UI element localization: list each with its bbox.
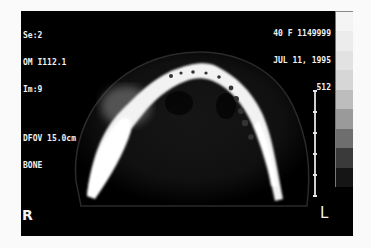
display-fov: DFOV 15.0cm bbox=[23, 134, 76, 143]
scale-tick bbox=[313, 132, 317, 134]
scale-tick bbox=[313, 90, 317, 92]
orientation-left-label: L bbox=[320, 204, 328, 222]
patient-id: 40 F 1149999 bbox=[273, 29, 331, 38]
om-value: OM I112.1 bbox=[23, 58, 76, 67]
grayscale-bar bbox=[335, 11, 353, 187]
ct-image-viewer[interactable]: Se:2 OM I112.1 Im:9 DFOV 15.0cm BONE 40 … bbox=[21, 11, 353, 236]
grayscale-step bbox=[336, 12, 353, 31]
grayscale-step bbox=[336, 31, 353, 50]
matrix-size: 512 bbox=[273, 83, 331, 92]
grayscale-step bbox=[336, 109, 353, 128]
study-date: JUL 11, 1995 bbox=[273, 56, 331, 65]
grayscale-step bbox=[336, 168, 353, 187]
series-number: Se:2 bbox=[23, 31, 76, 40]
orientation-right-label: R bbox=[22, 207, 33, 223]
distance-scale-bar bbox=[314, 90, 316, 197]
window-preset: BONE bbox=[23, 161, 76, 170]
grayscale-step bbox=[336, 148, 353, 167]
scale-tick bbox=[313, 111, 317, 113]
grayscale-step bbox=[336, 129, 353, 148]
series-info: Se:2 OM I112.1 Im:9 DFOV 15.0cm BONE bbox=[23, 13, 76, 188]
scale-tick bbox=[313, 195, 317, 197]
scale-tick bbox=[313, 153, 317, 155]
image-number: Im:9 bbox=[23, 85, 76, 94]
grayscale-step bbox=[336, 70, 353, 89]
grayscale-step bbox=[336, 51, 353, 70]
grayscale-step bbox=[336, 90, 353, 109]
patient-info: 40 F 1149999 JUL 11, 1995 512 bbox=[273, 11, 331, 110]
scale-tick bbox=[313, 174, 317, 176]
